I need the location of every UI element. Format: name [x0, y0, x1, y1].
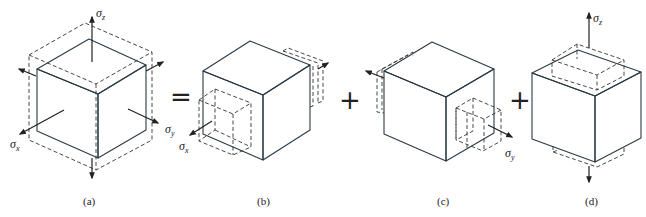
plus-operator-2: +: [509, 85, 531, 115]
sigma-y-arrow-back: [146, 62, 163, 71]
equals-operator: =: [170, 82, 192, 112]
panel-a: σz σx σy (a): [10, 6, 175, 208]
sigma-z-label-d: σz: [593, 11, 603, 27]
cube-b: [203, 41, 310, 160]
deformed-outline-a: [29, 23, 152, 170]
caption-d: (d): [585, 195, 598, 208]
cube-d: [532, 50, 641, 162]
sigma-y-label-a: σy: [165, 122, 175, 138]
stress-arrows-a: [19, 17, 163, 178]
sigma-y-arrow-c: [488, 125, 512, 137]
deformed-outline-c: [377, 52, 501, 151]
panel-d: σz (d): [532, 11, 641, 208]
sigma-x-label-b: σx: [179, 139, 189, 155]
sigma-x-arrow-b: [190, 121, 212, 135]
sigma-y-arrow: [128, 109, 158, 123]
deformed-outline-b: [199, 48, 323, 155]
panel-b: σx (b): [179, 41, 328, 208]
panel-c: σy (c): [366, 42, 515, 208]
plus-operator-1: +: [339, 85, 361, 115]
sigma-z-label-a: σz: [96, 6, 106, 22]
cube-c: [384, 42, 494, 161]
caption-b: (b): [257, 195, 270, 208]
sigma-y-label-c: σy: [505, 146, 515, 162]
sigma-x-arrow-back: [19, 69, 36, 76]
caption-a: (a): [83, 195, 96, 208]
sigma-x-label-a: σx: [10, 137, 20, 153]
caption-c: (c): [437, 195, 450, 208]
stress-superposition-figure: σz σx σy (a) = σx (b): [0, 0, 646, 217]
sigma-y-arrow-back-c: [366, 71, 384, 78]
sigma-x-arrow: [20, 110, 64, 134]
